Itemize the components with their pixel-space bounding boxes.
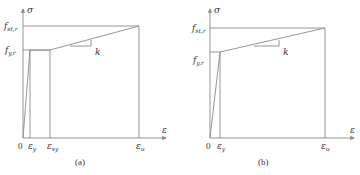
epsilon-sy-label: εsy [47, 141, 59, 153]
epsilon-label: ε [162, 125, 167, 135]
panel-b: σ ε 0 fst,r fy,r εy εu k (b) [191, 5, 355, 167]
fst-label: fst,r [3, 21, 19, 32]
slope-k-label: k [283, 47, 288, 57]
panel-a: σ ε 0 fst,r fy,r εy εsy εu k (a) [3, 5, 167, 167]
epsilon-u-label: εu [136, 141, 145, 152]
fst-label: fst,r [191, 23, 207, 34]
epsilon-label: ε [350, 125, 355, 135]
epsilon-y-label: εy [217, 141, 226, 153]
panel-a-caption: (a) [75, 157, 85, 167]
stress-strain-curve [210, 28, 325, 138]
origin-label: 0 [18, 141, 23, 151]
stress-strain-curve [23, 26, 139, 138]
fy-label: fy,r [192, 55, 205, 67]
sigma-label: σ [214, 5, 221, 15]
sigma-label: σ [27, 5, 34, 15]
origin-label: 0 [206, 141, 211, 151]
epsilon-u-label: εu [321, 141, 330, 152]
epsilon-y-label: εy [28, 141, 37, 153]
stress-strain-diagram: σ ε 0 fst,r fy,r εy εsy εu k (a) σ ε 0 f… [0, 0, 360, 175]
panel-b-caption: (b) [258, 157, 269, 167]
slope-k-label: k [95, 47, 100, 57]
slope-triangle [70, 40, 91, 46]
fy-label: fy,r [4, 45, 17, 57]
